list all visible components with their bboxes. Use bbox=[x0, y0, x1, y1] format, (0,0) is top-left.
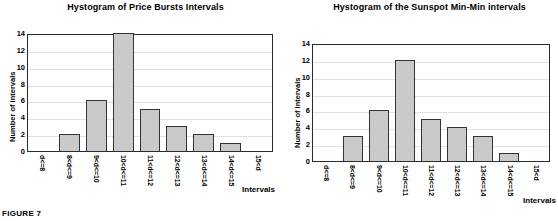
bar[interactable] bbox=[395, 60, 415, 161]
bar[interactable] bbox=[59, 134, 80, 151]
plot-area bbox=[27, 34, 273, 152]
x-axis-tick-slot: 10<d<=11 bbox=[392, 163, 418, 207]
chart-panel-sunspot: Hystogram of the Sunspot Min-Min interva… bbox=[279, 0, 558, 205]
x-axis-tick-label: 13<d<=14 bbox=[201, 155, 208, 186]
y-axis-tick-label: 10 bbox=[17, 64, 25, 72]
bar[interactable] bbox=[166, 126, 187, 151]
bar-slot bbox=[110, 35, 137, 151]
x-axis-tick-label: 10<d<=11 bbox=[119, 155, 126, 186]
chart-title: Hystogram of the Sunspot Min-Min interva… bbox=[305, 2, 554, 13]
bar[interactable] bbox=[113, 33, 134, 151]
y-axis-tick-label: 2 bbox=[21, 131, 25, 139]
bar-slot bbox=[496, 45, 522, 161]
bar-series bbox=[28, 35, 272, 151]
bar-series bbox=[313, 45, 549, 161]
y-axis-tick-label: 14 bbox=[302, 40, 310, 48]
bar-slot bbox=[340, 45, 366, 161]
x-axis-tick-label: 11<d<=12 bbox=[146, 155, 153, 186]
y-axis-tick-label: 12 bbox=[302, 57, 310, 65]
bar-slot bbox=[29, 35, 56, 151]
plot-area bbox=[312, 44, 550, 162]
bar-slot bbox=[314, 45, 340, 161]
x-axis-tick-label: 8<d<=9 bbox=[65, 155, 72, 179]
x-axis-tick-slot: 10<d<=11 bbox=[109, 153, 136, 197]
bar[interactable] bbox=[193, 134, 214, 151]
bar-slot bbox=[244, 35, 271, 151]
x-axis-tick-label: 9<d<=10 bbox=[92, 155, 99, 183]
x-axis-tick-slot: 9<d<=10 bbox=[82, 153, 109, 197]
bar-slot bbox=[522, 45, 548, 161]
x-axis-tick-slot: 12<d<=13 bbox=[444, 163, 470, 207]
x-axis-tick-label: 14<d<=15 bbox=[228, 155, 235, 186]
chart-panel-price-bursts: Hystogram of Price Bursts Intervals 0246… bbox=[0, 0, 279, 205]
x-axis-tick-slot: 11<d<=12 bbox=[136, 153, 163, 197]
bar[interactable] bbox=[343, 136, 363, 161]
x-axis-tick-slot: 8<d<=9 bbox=[55, 153, 82, 197]
bar-slot bbox=[418, 45, 444, 161]
x-axis-tick-label: 8<d<=9 bbox=[349, 165, 356, 189]
bar-slot bbox=[137, 35, 164, 151]
x-axis-title: Intervals bbox=[523, 196, 556, 205]
bar[interactable] bbox=[86, 100, 107, 151]
y-axis-title: Number of intervals bbox=[8, 72, 17, 142]
figure-caption: FIGURE 7 bbox=[2, 209, 41, 218]
bar[interactable] bbox=[140, 109, 161, 151]
x-axis-tick-label: 11<d<=12 bbox=[427, 165, 434, 196]
bar[interactable] bbox=[499, 153, 519, 161]
x-axis-tick-label: 9<d<=10 bbox=[375, 165, 382, 193]
figure-container: Hystogram of Price Bursts Intervals 0246… bbox=[0, 0, 558, 221]
bar-slot bbox=[392, 45, 418, 161]
x-axis-tick-label: 13<d<=14 bbox=[480, 165, 487, 196]
x-axis-tick-slot: d<=8 bbox=[28, 153, 55, 197]
bar[interactable] bbox=[369, 110, 389, 161]
x-axis-tick-labels: d<=88<d<=99<d<=1010<d<=1111<d<=1212<d<=1… bbox=[27, 153, 273, 197]
y-axis-tick-label: 4 bbox=[21, 114, 25, 122]
x-axis-tick-label: 10<d<=11 bbox=[401, 165, 408, 196]
y-axis-tick-label: 6 bbox=[21, 97, 25, 105]
x-axis-tick-slot: 13<d<=14 bbox=[470, 163, 496, 207]
x-axis-tick-label: 15<d bbox=[532, 165, 539, 181]
y-axis-tick-label: 0 bbox=[306, 158, 310, 166]
x-axis-title: Intervals bbox=[242, 185, 275, 194]
y-axis-tick-label: 14 bbox=[17, 30, 25, 38]
x-axis-tick-label: 14<d<=15 bbox=[506, 165, 513, 196]
bar-slot bbox=[163, 35, 190, 151]
bar-slot bbox=[56, 35, 83, 151]
x-axis-tick-slot: d<=8 bbox=[313, 163, 339, 207]
y-axis-tick-label: 6 bbox=[306, 107, 310, 115]
y-axis-tick-label: 10 bbox=[302, 74, 310, 82]
y-axis-tick-label: 12 bbox=[17, 47, 25, 55]
x-axis-tick-label: d<=8 bbox=[323, 165, 330, 181]
bar[interactable] bbox=[220, 143, 241, 151]
x-axis-tick-label: d<=8 bbox=[38, 155, 45, 171]
y-axis-tick-label: 0 bbox=[21, 148, 25, 156]
bar[interactable] bbox=[447, 127, 467, 161]
x-axis-tick-slot: 11<d<=12 bbox=[418, 163, 444, 207]
bar-slot bbox=[366, 45, 392, 161]
y-axis-tick-label: 8 bbox=[306, 91, 310, 99]
x-axis-tick-slot: 14<d<=15 bbox=[218, 153, 245, 197]
x-axis-tick-slot: 14<d<=15 bbox=[497, 163, 523, 207]
x-axis-tick-slot: 13<d<=14 bbox=[191, 153, 218, 197]
chart-title: Hystogram of Price Bursts Intervals bbox=[18, 2, 273, 13]
bar[interactable] bbox=[473, 136, 493, 161]
x-axis-tick-label: 15<d bbox=[255, 155, 262, 171]
x-axis-tick-slot: 8<d<=9 bbox=[339, 163, 365, 207]
x-axis-tick-label: 12<d<=13 bbox=[174, 155, 181, 186]
x-axis-tick-labels: d<=88<d<=99<d<=1010<d<=1111<d<=1212<d<=1… bbox=[312, 163, 550, 207]
y-axis-tick-label: 4 bbox=[306, 124, 310, 132]
bar[interactable] bbox=[421, 119, 441, 161]
x-axis-tick-label: 12<d<=13 bbox=[454, 165, 461, 196]
bar-slot bbox=[444, 45, 470, 161]
y-axis-tick-label: 8 bbox=[21, 81, 25, 89]
bar-slot bbox=[470, 45, 496, 161]
x-axis-tick-slot: 12<d<=13 bbox=[164, 153, 191, 197]
x-axis-tick-slot: 9<d<=10 bbox=[365, 163, 391, 207]
bar-slot bbox=[83, 35, 110, 151]
y-axis-tick-label: 2 bbox=[306, 141, 310, 149]
y-axis-title: Number of intervals bbox=[293, 78, 302, 148]
bar-slot bbox=[217, 35, 244, 151]
bar-slot bbox=[190, 35, 217, 151]
